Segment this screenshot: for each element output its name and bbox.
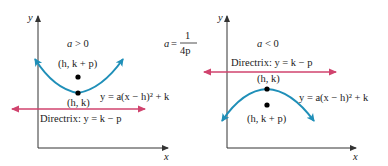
focus-label: (h, k + p) xyxy=(58,58,98,70)
y-axis-label: y xyxy=(217,12,223,23)
y-axis-label: y xyxy=(27,12,33,23)
focus-label: (h, k + p) xyxy=(247,113,287,125)
vertex-label: (h, k) xyxy=(257,73,280,85)
condition-label: a > 0 xyxy=(67,38,89,49)
vertex-point xyxy=(264,86,269,91)
focus-point xyxy=(264,102,269,107)
formula-numerator: 1 xyxy=(185,30,190,41)
x-axis-label: x xyxy=(352,151,358,162)
formula-eq: = xyxy=(171,38,177,49)
left-panel: y x a > 0 (h, k + p) (h, k) y = a(x − h)… xyxy=(12,12,170,162)
x-axis-label: x xyxy=(163,151,169,162)
condition-label: a < 0 xyxy=(257,38,279,49)
vertex-label: (h, k) xyxy=(67,97,90,109)
a-formula: a = 1 4p xyxy=(164,30,197,56)
vertex-point xyxy=(75,90,80,95)
formula-denominator: 4p xyxy=(180,45,191,56)
equation-label: y = a(x − h)² + k xyxy=(100,91,170,103)
focus-point xyxy=(75,74,80,79)
parabola-diagram: y x a > 0 (h, k + p) (h, k) y = a(x − h)… xyxy=(0,0,388,166)
formula-lhs: a xyxy=(164,38,169,49)
directrix-label: Directrix: y = k − p xyxy=(231,57,313,68)
equation-label: y = a(x − h)² + k xyxy=(299,92,369,104)
directrix-label: Directrix: y = k − p xyxy=(40,113,122,124)
right-panel: y x a < 0 Directrix: y = k − p (h, k) y … xyxy=(204,12,369,162)
